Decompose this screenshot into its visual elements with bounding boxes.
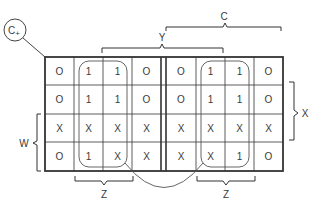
left-map-cell: O: [56, 66, 64, 77]
right-map-cell: 1: [237, 151, 243, 162]
right-map-cell: 1: [208, 94, 214, 105]
c-label: C: [220, 11, 227, 22]
right-map-cell: O: [177, 66, 185, 77]
z-bracket-right: [197, 176, 255, 185]
z-right-label: Z: [223, 189, 229, 200]
left-map-cell: X: [143, 123, 150, 134]
right-map-cell: 1: [237, 66, 243, 77]
left-map-cell: X: [85, 123, 92, 134]
left-map-cell: X: [114, 151, 121, 162]
left-map-cell: O: [56, 151, 64, 162]
left-map-cell: 1: [86, 151, 92, 162]
left-map-cell: X: [114, 123, 121, 134]
left-map-cell: O: [56, 94, 64, 105]
y-label: Y: [159, 32, 166, 43]
w-label: W: [19, 138, 29, 149]
right-map-cell: X: [207, 151, 214, 162]
left-map-cell: X: [56, 123, 63, 134]
y-bracket: [102, 44, 223, 53]
x-bracket: [289, 82, 298, 140]
left-map-cell: X: [143, 151, 150, 162]
left-map-cell: 1: [86, 94, 92, 105]
right-map-cell: X: [178, 151, 185, 162]
left-map-cell: O: [143, 94, 151, 105]
right-map-cell: O: [265, 94, 273, 105]
x-label: X: [302, 108, 309, 119]
right-map-cell: X: [236, 123, 243, 134]
left-map-cell: 1: [115, 66, 121, 77]
z-bracket-left: [75, 176, 133, 185]
w-bracket: [33, 114, 41, 171]
z-left-label: Z: [101, 189, 107, 200]
c-bracket: [166, 23, 281, 31]
connecting-arc: [125, 163, 203, 188]
grid: [45, 57, 283, 171]
left-map-cell: 1: [86, 66, 92, 77]
right-map-cell: O: [265, 66, 273, 77]
right-map-cell: X: [265, 123, 272, 134]
right-map-cell: 1: [237, 94, 243, 105]
right-map-cell: X: [178, 123, 185, 134]
right-map-cell: O: [265, 151, 273, 162]
left-map-cell: 1: [115, 94, 121, 105]
corner-label: C+: [4, 19, 45, 57]
right-map-cell: O: [177, 94, 185, 105]
grouping-loops: [79, 61, 249, 188]
karnaugh-map-diagram: C+ O11OO11OXXXXO1XXO11OO11OXXXXXX1O: [0, 0, 320, 210]
right-map-cell: X: [207, 123, 214, 134]
corner-label-text: C+: [8, 25, 20, 38]
right-map-cell: 1: [208, 66, 214, 77]
left-map-cell: O: [143, 66, 151, 77]
